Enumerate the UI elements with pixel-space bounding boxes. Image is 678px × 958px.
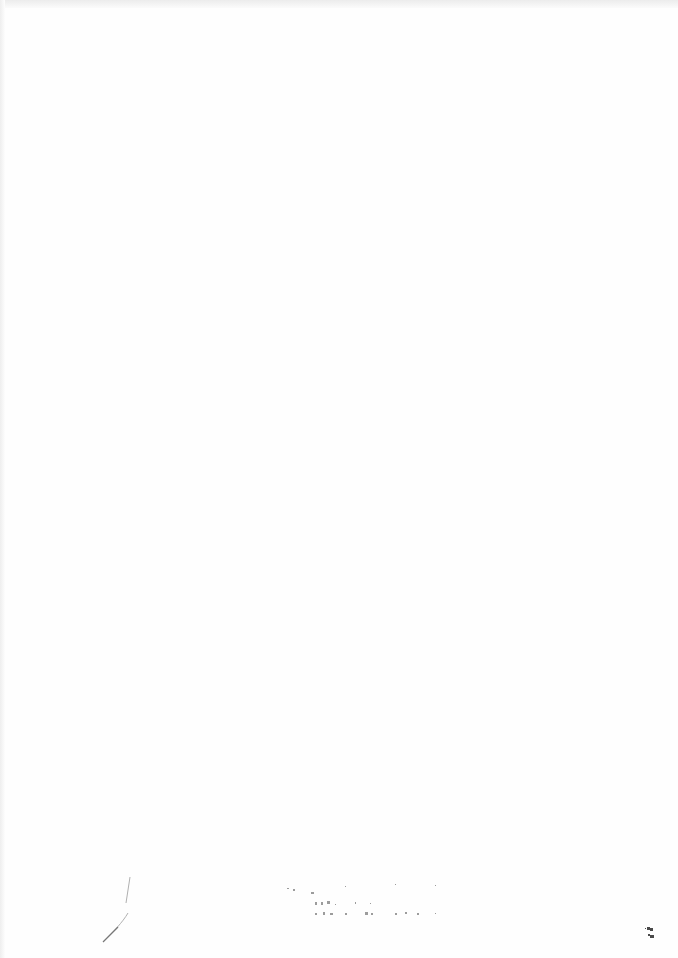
- scanned-page: [0, 0, 678, 958]
- corner-mark: [644, 925, 658, 945]
- stamp-speckle-icon: [285, 880, 475, 930]
- faded-stamp: [285, 880, 475, 930]
- scan-left-edge: [0, 0, 5, 958]
- corner-smudge-icon: [644, 925, 658, 945]
- pen-stroke-icon: [100, 875, 140, 945]
- scan-top-edge: [0, 0, 678, 8]
